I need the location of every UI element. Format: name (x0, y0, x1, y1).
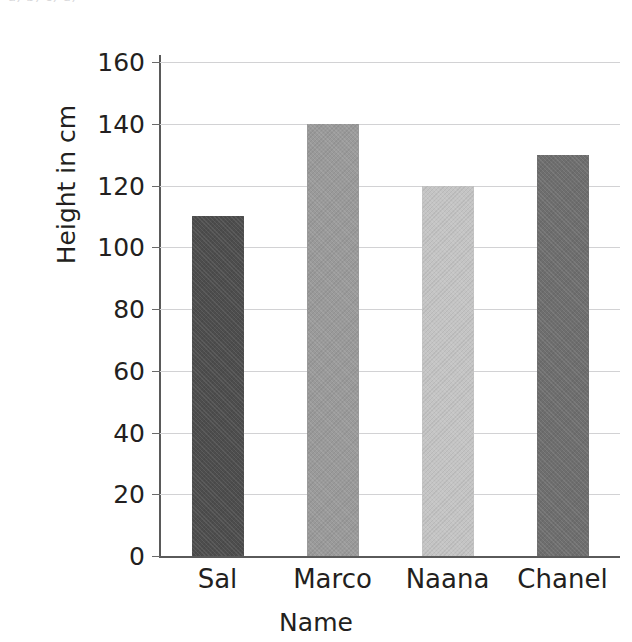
y-axis-tick (152, 494, 160, 495)
plot-area (160, 62, 620, 556)
bar-texture (307, 124, 359, 556)
y-axis-tick-label: 80 (60, 297, 145, 322)
y-axis-tick (152, 62, 160, 63)
gridline (160, 124, 620, 125)
y-axis-tick-label: 0 (60, 544, 145, 569)
y-axis-tick-label: 160 (60, 50, 145, 75)
bar-texture (537, 155, 589, 556)
y-axis-tick-label: 140 (60, 112, 145, 137)
y-axis-tick (152, 371, 160, 372)
x-axis-category-label: Marco (275, 566, 390, 592)
y-axis-tick (152, 309, 160, 310)
bar (537, 155, 589, 556)
x-axis-title: Name (0, 608, 632, 637)
y-axis-tick-label: 60 (60, 359, 145, 384)
bar-chart: Height in cm 020406080100120140160SalMar… (0, 0, 632, 642)
x-axis-category-label: Naana (390, 566, 505, 592)
y-axis-tick-label: 40 (60, 421, 145, 446)
y-axis-tick-label: 100 (60, 235, 145, 260)
gridline (160, 62, 620, 63)
x-axis-baseline (160, 556, 620, 558)
y-axis-tick (152, 124, 160, 125)
y-axis-tick-label: 20 (60, 482, 145, 507)
y-axis-tick-label: 120 (60, 174, 145, 199)
y-axis-tick (152, 556, 160, 557)
bar (422, 186, 474, 557)
bar (192, 216, 244, 556)
x-axis-category-label: Sal (160, 566, 275, 592)
x-axis-category-label: Chanel (505, 566, 620, 592)
bar-texture (422, 186, 474, 557)
y-axis-tick (152, 433, 160, 434)
bar-texture (192, 216, 244, 556)
bar (307, 124, 359, 556)
y-axis-tick (152, 247, 160, 248)
y-axis-tick (152, 186, 160, 187)
